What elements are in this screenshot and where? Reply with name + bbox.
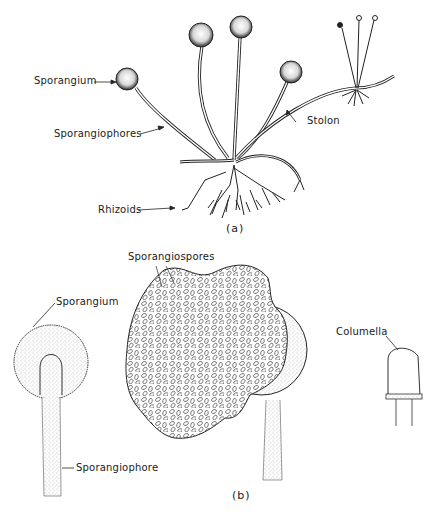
sporangium-head	[189, 23, 213, 47]
panel-b-middle-sporangium	[126, 265, 307, 480]
label-columella: Columella	[336, 326, 388, 337]
label-sporangiophore: Sporangiophore	[76, 462, 158, 473]
panel-b-label: (b)	[232, 489, 251, 502]
panel-a-drawing	[136, 16, 394, 219]
sporangium-head	[230, 16, 252, 38]
label-sporangium-a: Sporangium	[34, 75, 97, 86]
panel-a-label: (a)	[226, 222, 244, 235]
label-stolon: Stolon	[307, 115, 340, 126]
label-sporangiospores: Sporangiospores	[128, 251, 215, 262]
panel-b-columella	[386, 336, 422, 426]
label-sporangiophores: Sporangiophores	[54, 128, 142, 139]
label-sporangium-b: Sporangium	[56, 296, 119, 307]
label-rhizoids: Rhizoids	[98, 204, 141, 215]
sporangium-head	[280, 61, 302, 83]
sporangium-head	[116, 68, 138, 90]
